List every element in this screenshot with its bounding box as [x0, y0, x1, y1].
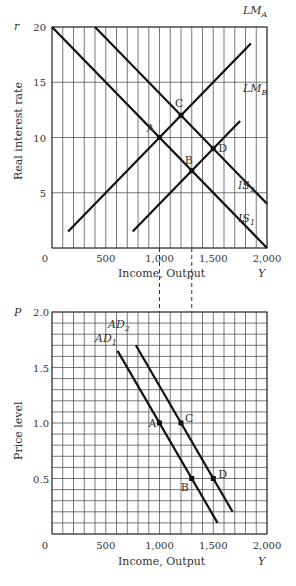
equilibrium-point-c	[179, 421, 184, 426]
x-tick-label: 2,000	[253, 253, 282, 264]
y-tick-label: 1.0	[33, 418, 49, 429]
y-tick-label: 10	[33, 133, 46, 144]
top-x-axis-label: Income, Output	[118, 267, 206, 280]
x-tick-label: 1,500	[199, 253, 228, 264]
equilibrium-point-c	[179, 113, 184, 118]
y-tick-label: 5	[40, 188, 46, 199]
axis-tick-labels: 05001,0001,5002,00005001,0001,5002,00051…	[33, 22, 281, 551]
point-label-c: C	[185, 412, 193, 425]
bottom-y-symbol: P	[13, 306, 22, 319]
point-label-b: B	[181, 481, 189, 494]
is-lm-ad-figure: IS1IS2LMALMBABCD AD1AD2ABCD 05001,0001,5…	[0, 0, 296, 586]
y-tick-label: 15	[33, 77, 46, 88]
curve-label-lmb: LMB	[242, 82, 268, 97]
x-tick-label: 1,000	[145, 540, 174, 551]
bottom-x-symbol: Y	[258, 555, 267, 568]
equilibrium-point-b	[189, 168, 194, 173]
y-tick-label: 2.0	[33, 307, 49, 318]
top-y-symbol: r	[14, 20, 20, 33]
point-label-b: B	[185, 154, 193, 167]
point-label-a: A	[148, 417, 158, 430]
x-tick-label: 1,000	[145, 253, 174, 264]
curve-label-is2: IS2	[237, 179, 255, 194]
equilibrium-point-d	[211, 146, 216, 151]
x-tick-label: 0	[42, 540, 48, 551]
x-tick-label: 0	[42, 253, 48, 264]
equilibrium-point-a	[157, 421, 162, 426]
curve-label-ad2: AD2	[107, 318, 130, 333]
x-tick-label: 500	[96, 253, 115, 264]
equilibrium-point-d	[211, 476, 216, 481]
point-label-c: C	[175, 97, 183, 110]
bottom-chart-curves: AD1AD2ABCD	[94, 318, 233, 523]
y-tick-label: 1.5	[33, 363, 49, 374]
point-label-d: D	[218, 468, 227, 481]
y-tick-label: 0.5	[33, 474, 49, 485]
x-tick-label: 500	[96, 540, 115, 551]
curve-label-lma: LMA	[242, 4, 268, 19]
equilibrium-point-b	[189, 476, 194, 481]
top-y-axis-label: Real interest rate	[12, 82, 25, 180]
bottom-x-axis-label: Income, Output	[118, 555, 206, 568]
point-label-a: A	[146, 122, 156, 135]
curve-label-is1: IS1	[237, 212, 255, 227]
x-tick-label: 2,000	[253, 540, 282, 551]
equilibrium-point-a	[157, 135, 162, 140]
bottom-y-axis-label: Price level	[12, 401, 25, 460]
point-label-d: D	[218, 142, 227, 155]
x-tick-label: 1,500	[199, 540, 228, 551]
top-x-symbol: Y	[258, 267, 267, 280]
y-tick-label: 20	[33, 22, 46, 33]
